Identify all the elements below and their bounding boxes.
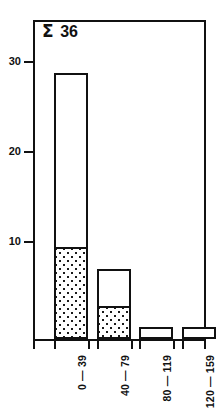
x-tick-mark: [131, 341, 133, 349]
bar-120-159: [182, 327, 216, 339]
x-tick-mark: [88, 341, 90, 349]
y-tick-mark: [24, 151, 33, 153]
y-tick-mark: [24, 61, 33, 63]
y-tick-label: 30: [9, 55, 21, 67]
bar-40-79: [97, 269, 131, 339]
x-tick-mark: [182, 341, 184, 349]
bar-shaded-portion: [56, 247, 86, 337]
x-tick-label-80-119: 80 — 119: [161, 355, 173, 402]
bars-layer: [33, 20, 206, 341]
x-tick-mark: [33, 341, 35, 349]
bar-0-39: [54, 73, 88, 339]
x-tick-label-0-39: 0 — 39: [76, 355, 88, 390]
x-tick-label-40-79: 40 — 79: [119, 355, 131, 396]
x-tick-mark: [139, 341, 141, 349]
x-tick-mark: [173, 341, 175, 349]
x-tick-mark: [54, 341, 56, 349]
histogram-figure: Σ 36 30 20 10: [0, 0, 217, 409]
x-tick-mark: [204, 341, 206, 349]
x-tick-label-120-159: 120 — 159: [204, 355, 216, 408]
bar-80-119: [139, 327, 173, 339]
y-tick-label: 20: [9, 145, 21, 157]
y-tick-mark: [24, 241, 33, 243]
x-axis: 0 — 39 40 — 79 80 — 119 120 — 159: [33, 341, 206, 409]
bar-shaded-portion: [99, 306, 129, 337]
y-tick-label: 10: [9, 235, 21, 247]
x-tick-mark: [97, 341, 99, 349]
